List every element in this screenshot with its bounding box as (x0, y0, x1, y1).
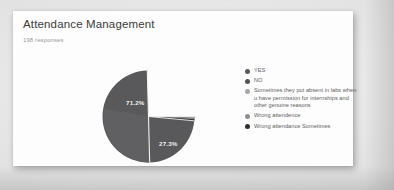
response-count-label: 198 responses (23, 37, 64, 43)
pie-label-slice-2: 27.3% (159, 140, 178, 147)
legend-item-label: Sometimes they put absent in labs when u… (254, 87, 357, 110)
pie-slice-no[interactable] (103, 109, 149, 163)
legend-item-no[interactable]: NO (245, 77, 357, 85)
legend-bullet-icon (245, 124, 250, 129)
legend-item-yes[interactable]: YES (245, 67, 357, 75)
chart-legend: YES NO Sometimes they put absent in labs… (245, 67, 357, 133)
chart-card: Attendance Management 198 responses (13, 11, 353, 166)
legend-item-label: Wrong attendence (254, 112, 300, 120)
pie-chart: 71.2% 27.3% (101, 69, 196, 164)
legend-item-sometimes-labs[interactable]: Sometimes they put absent in labs when u… (245, 87, 357, 110)
legend-item-label: YES (254, 67, 265, 75)
legend-item-label: Wrong attendance Sometimes (254, 123, 330, 131)
legend-item-wrong-attendence[interactable]: Wrong attendence (245, 112, 357, 120)
legend-bullet-icon (245, 79, 250, 84)
legend-bullet-icon (245, 89, 250, 94)
page-title: Attendance Management (23, 18, 155, 30)
chart-card-inner: Attendance Management 198 responses (13, 11, 353, 166)
pie-label-slice-1: 71.2% (126, 99, 145, 106)
legend-item-wrong-attendance-sometimes[interactable]: Wrong attendance Sometimes (245, 123, 357, 131)
legend-item-label: NO (254, 77, 263, 85)
pie-chart-svg: 71.2% 27.3% (101, 69, 196, 164)
plot-area: 71.2% 27.3% YES NO Sometimes they put ab… (13, 49, 353, 165)
legend-bullet-icon (245, 69, 250, 74)
legend-bullet-icon (245, 114, 250, 119)
